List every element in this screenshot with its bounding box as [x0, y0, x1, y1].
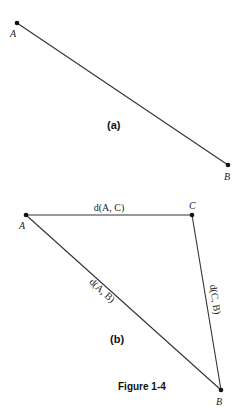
point-c-label: C — [189, 200, 196, 211]
point-b-label: B — [216, 396, 222, 407]
point-c — [190, 213, 195, 218]
point-a — [24, 213, 29, 218]
part-a-label: (a) — [107, 119, 121, 131]
edge-label-a-c: d(A, C) — [94, 202, 125, 214]
figure-caption: Figure 1-4 — [118, 381, 166, 392]
part-a: A B (a) — [9, 21, 230, 182]
point-a — [15, 21, 20, 26]
point-b-label: B — [224, 171, 230, 182]
part-b: A C B d(A, C) d(A, B) d(C, B) (b) — [18, 200, 223, 407]
segment-a-b — [17, 23, 228, 165]
point-b — [219, 388, 224, 393]
point-a-label: A — [18, 220, 26, 231]
segment-a-b — [26, 215, 221, 390]
edge-label-c-b: d(C, B) — [207, 284, 224, 316]
edge-label-a-b: d(A, B) — [87, 276, 118, 305]
point-b — [226, 163, 231, 168]
figure-canvas: A B (a) A C B d(A, C) d(A, B) d(C, B) (b… — [0, 0, 240, 408]
point-a-label: A — [9, 28, 17, 39]
part-b-label: (b) — [110, 333, 124, 345]
